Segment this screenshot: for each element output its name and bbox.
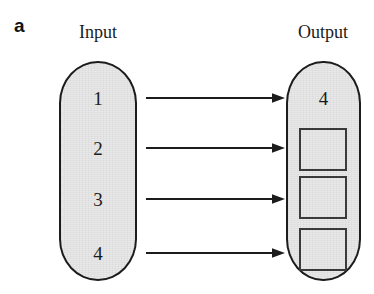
output-item-3-empty-box	[299, 176, 347, 219]
arrow-4	[146, 247, 285, 259]
input-item-4: 4	[59, 244, 137, 263]
output-item-2-empty-box	[299, 128, 347, 171]
arrow-2	[146, 142, 285, 154]
output-item-1: 4	[286, 89, 361, 108]
input-item-1: 1	[59, 89, 137, 108]
input-item-3: 3	[59, 190, 137, 209]
figure-panel-a: a Input Output 1 2 3 4 4	[0, 0, 374, 294]
output-item-4-empty-box	[299, 228, 347, 271]
input-column-caption: Input	[58, 23, 138, 41]
output-column-caption: Output	[283, 23, 363, 41]
arrow-3	[146, 193, 285, 205]
panel-letter: a	[14, 16, 25, 35]
input-item-2: 2	[59, 139, 137, 158]
arrow-1	[146, 92, 285, 104]
